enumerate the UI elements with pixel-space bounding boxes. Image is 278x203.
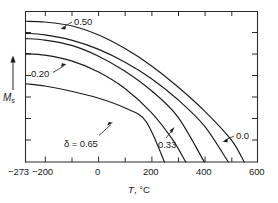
x-axis-title: T, °C (0, 184, 278, 195)
right-axis-ticks (252, 33, 258, 141)
curve-label-00: 0.0 (236, 130, 249, 141)
x-axis-ticks (26, 156, 258, 163)
x-tick-label-3: 200 (143, 166, 159, 177)
x-tick-label-5: 600 (249, 166, 265, 177)
curve-delta-0-65 (26, 84, 165, 162)
x-tick-label-1: −200 (32, 166, 53, 177)
y-axis-direction-arrow (10, 56, 15, 91)
curve-label-020: 0.20 (31, 68, 49, 79)
y-axis-ticks (26, 33, 32, 141)
data-curves (26, 21, 245, 162)
curve-delta-0 (26, 33, 229, 162)
y-axis-title: Ms (3, 92, 15, 104)
plot-frame (25, 11, 258, 163)
x-axis-title-units: , °C (134, 184, 150, 195)
chart-figure: −273 −200 0 200 400 600 0.50 0.20 δ = 0.… (0, 0, 278, 203)
x-tick-label-4: 400 (196, 166, 212, 177)
leader-020 (53, 66, 65, 73)
curve-label-delta-065: δ = 0.65 (64, 138, 98, 149)
y-axis-title-subscript: s (11, 97, 15, 104)
arrowhead-050 (61, 26, 67, 30)
x-tick-label-0: −273 (8, 166, 29, 177)
arrowhead-00 (223, 139, 229, 143)
x-tick-label-2: 0 (95, 166, 100, 177)
leader-delta-065 (99, 125, 111, 136)
curve-label-033: 0.33 (158, 139, 176, 150)
annotation-leaders (53, 22, 234, 143)
curve-label-050: 0.50 (74, 16, 92, 27)
